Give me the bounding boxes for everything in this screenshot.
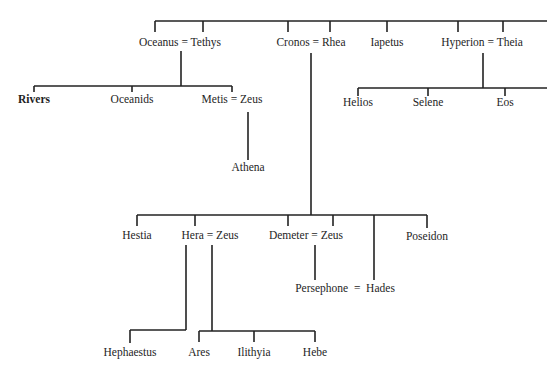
- node-demeter-zeus: Demeter = Zeus: [269, 229, 343, 242]
- node-poseidon: Poseidon: [406, 230, 448, 243]
- node-persephone-hades: Persephone = Hades: [295, 282, 395, 295]
- node-oceanids: Oceanids: [111, 93, 154, 106]
- node-helios: Helios: [343, 96, 373, 109]
- node-rivers: Rivers: [18, 93, 50, 106]
- node-ilithyia: Ilithyia: [237, 346, 270, 359]
- node-iapetus: Iapetus: [370, 36, 403, 49]
- node-cronos-rhea: Cronos = Rhea: [276, 36, 345, 49]
- node-hera-zeus: Hera = Zeus: [182, 229, 239, 242]
- tree-connector-lines: [0, 0, 547, 372]
- node-athena: Athena: [231, 161, 264, 174]
- node-hephaestus: Hephaestus: [103, 346, 156, 359]
- family-tree-diagram: Oceanus = Tethys Cronos = Rhea Iapetus H…: [0, 0, 547, 372]
- node-eos: Eos: [496, 96, 513, 109]
- node-selene: Selene: [413, 96, 444, 109]
- node-hestia: Hestia: [122, 229, 151, 242]
- node-hyperion-theia: Hyperion = Theia: [441, 36, 523, 49]
- node-hebe: Hebe: [303, 346, 327, 359]
- node-metis-zeus: Metis = Zeus: [202, 93, 263, 106]
- node-oceanus-tethys: Oceanus = Tethys: [139, 36, 221, 49]
- node-ares: Ares: [188, 346, 210, 359]
